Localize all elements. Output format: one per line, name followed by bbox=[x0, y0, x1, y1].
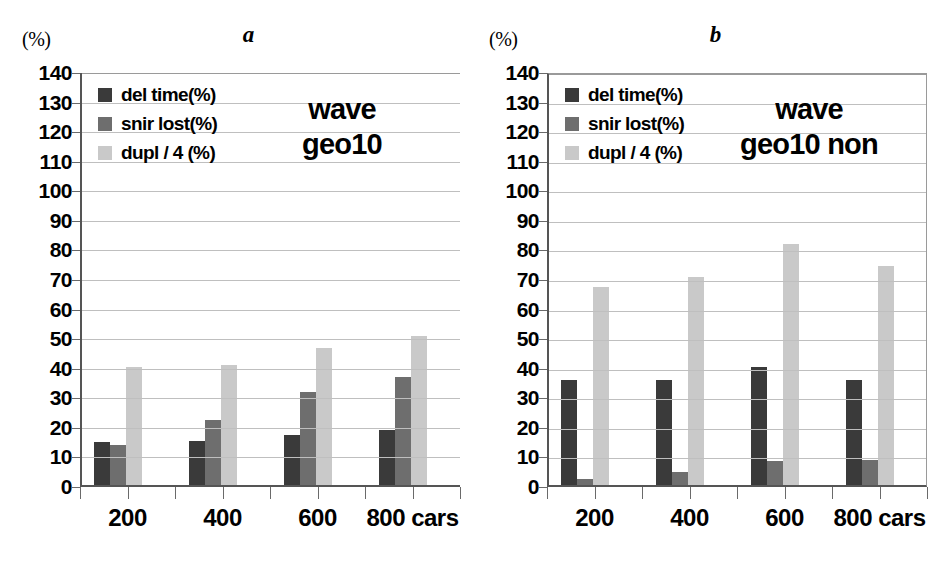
legend-label: snir lost(%) bbox=[588, 113, 684, 135]
bar-del-time--200 bbox=[561, 380, 577, 485]
y-tick-mark-80 bbox=[72, 250, 80, 251]
gridline-50 bbox=[82, 339, 460, 340]
y-tick-label-90: 90 bbox=[10, 209, 72, 233]
bar-snir-lost--200 bbox=[577, 479, 593, 485]
x-tick-mark-7 bbox=[880, 487, 881, 499]
y-tick-mark-20 bbox=[539, 428, 547, 429]
y-tick-mark-60 bbox=[539, 310, 547, 311]
gridline-60 bbox=[82, 310, 460, 311]
y-tick-label-120: 120 bbox=[477, 120, 539, 144]
y-tick-mark-0 bbox=[539, 487, 547, 488]
y-tick-mark-30 bbox=[72, 398, 80, 399]
gridline-100 bbox=[82, 191, 460, 192]
bar-del-time--800-cars bbox=[846, 380, 862, 485]
annotation-line-2-a: geo10 bbox=[227, 127, 457, 162]
y-tick-label-50: 50 bbox=[477, 327, 539, 351]
y-tick-label-0: 0 bbox=[10, 475, 72, 499]
bar-snir-lost--400 bbox=[205, 420, 221, 485]
x-tick-mark-6 bbox=[365, 487, 366, 499]
bar-snir-lost--200 bbox=[110, 445, 126, 485]
y-tick-label-80: 80 bbox=[10, 238, 72, 262]
y-tick-mark-80 bbox=[539, 250, 547, 251]
bar-snir-lost--600 bbox=[767, 461, 783, 485]
x-tick-mark-3 bbox=[690, 487, 691, 499]
legend-label: dupl / 4 (%) bbox=[588, 142, 682, 164]
y-tick-label-10: 10 bbox=[10, 445, 72, 469]
chart-panel-b: (%) b 1401301201101009080706050403020100… bbox=[467, 0, 934, 561]
gridline-60 bbox=[549, 311, 926, 312]
x-tick-mark-5 bbox=[785, 487, 786, 499]
y-tick-mark-0 bbox=[72, 487, 80, 488]
x-tick-mark-1 bbox=[128, 487, 129, 499]
gridline-80 bbox=[549, 251, 926, 252]
x-axis-labels-a: 200400600800 cars bbox=[80, 504, 460, 538]
y-tick-label-40: 40 bbox=[10, 357, 72, 381]
y-tick-label-80: 80 bbox=[477, 238, 539, 262]
annotation-line-1-a: wave bbox=[227, 92, 457, 127]
y-tick-mark-110 bbox=[539, 162, 547, 163]
bar-dupl-4--400 bbox=[221, 365, 237, 485]
legend-label: del time(%) bbox=[588, 84, 683, 106]
y-tick-label-70: 70 bbox=[477, 268, 539, 292]
panel-letter-a: a bbox=[0, 22, 467, 48]
gridline-20 bbox=[549, 429, 926, 430]
legend-swatch-icon-1 bbox=[98, 117, 112, 131]
annotation-line-2-b: geo10 non bbox=[694, 127, 924, 162]
legend-swatch-icon-0 bbox=[98, 88, 112, 102]
y-tick-mark-40 bbox=[539, 369, 547, 370]
x-tick-mark-6 bbox=[832, 487, 833, 499]
legend-label: dupl / 4 (%) bbox=[121, 142, 215, 164]
bar-snir-lost--400 bbox=[672, 472, 688, 485]
bar-dupl-4--200 bbox=[126, 367, 142, 485]
y-tick-label-30: 30 bbox=[10, 386, 72, 410]
y-tick-label-20: 20 bbox=[10, 416, 72, 440]
bar-snir-lost--800-cars bbox=[862, 460, 878, 485]
y-tick-mark-10 bbox=[72, 457, 80, 458]
y-tick-mark-100 bbox=[72, 191, 80, 192]
y-tick-label-130: 130 bbox=[477, 91, 539, 115]
y-tick-label-20: 20 bbox=[477, 416, 539, 440]
bar-del-time--400 bbox=[656, 380, 672, 485]
gridline-10 bbox=[549, 458, 926, 459]
y-tick-mark-50 bbox=[72, 339, 80, 340]
gridline-30 bbox=[82, 398, 460, 399]
bar-dupl-4--800-cars bbox=[411, 336, 427, 485]
x-tick-mark-2 bbox=[175, 487, 176, 499]
y-tick-label-120: 120 bbox=[10, 120, 72, 144]
y-tick-label-40: 40 bbox=[477, 357, 539, 381]
bar-dupl-4--400 bbox=[688, 277, 704, 485]
gridline-10 bbox=[82, 457, 460, 458]
x-tick-mark-5 bbox=[318, 487, 319, 499]
y-tick-mark-30 bbox=[539, 398, 547, 399]
y-axis-ticks-b: 1401301201101009080706050403020100 bbox=[467, 73, 539, 487]
gridline-90 bbox=[82, 221, 460, 222]
y-tick-label-0: 0 bbox=[477, 475, 539, 499]
y-tick-mark-100 bbox=[539, 191, 547, 192]
chart-panel-a: (%) a 1401301201101009080706050403020100… bbox=[0, 0, 467, 561]
y-tick-mark-20 bbox=[72, 428, 80, 429]
legend-label: snir lost(%) bbox=[121, 113, 217, 135]
bar-snir-lost--800-cars bbox=[395, 377, 411, 485]
chart-annotation-b: wave geo10 non bbox=[694, 92, 924, 163]
bar-del-time--600 bbox=[284, 435, 300, 485]
y-tick-label-140: 140 bbox=[477, 61, 539, 85]
legend-label: del time(%) bbox=[121, 84, 216, 106]
x-axis-label-800-cars: 800 cars bbox=[822, 504, 935, 532]
x-tick-mark-7 bbox=[413, 487, 414, 499]
figure-two-bar-charts: (%) a 1401301201101009080706050403020100… bbox=[0, 0, 935, 561]
gridline-140 bbox=[549, 74, 926, 75]
bar-snir-lost--600 bbox=[300, 392, 316, 485]
y-tick-mark-120 bbox=[72, 132, 80, 133]
gridline-40 bbox=[549, 370, 926, 371]
bar-del-time--400 bbox=[189, 441, 205, 485]
x-tick-mark-4 bbox=[270, 487, 271, 499]
x-tick-mark-1 bbox=[595, 487, 596, 499]
gridline-20 bbox=[82, 428, 460, 429]
gridline-40 bbox=[82, 369, 460, 370]
legend-swatch-icon-2 bbox=[98, 146, 112, 160]
y-tick-mark-70 bbox=[539, 280, 547, 281]
y-tick-mark-60 bbox=[72, 310, 80, 311]
panel-letter-b: b bbox=[467, 22, 934, 48]
x-tick-mark-3 bbox=[223, 487, 224, 499]
gridline-70 bbox=[549, 281, 926, 282]
